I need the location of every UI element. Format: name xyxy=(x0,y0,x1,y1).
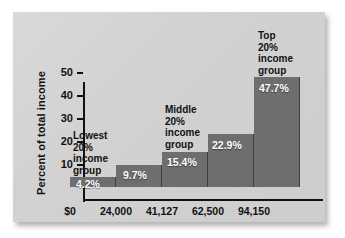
x-tick-label-0: $0 xyxy=(58,205,82,217)
y-tick-mark-40 xyxy=(77,95,83,97)
annotation-lowest-line-2: 20% xyxy=(73,142,108,154)
bar-value-lowest: 4.2% xyxy=(76,178,100,190)
annotation-lowest-line-1: Lowest xyxy=(73,130,108,142)
y-tick-label-50: 50 xyxy=(49,67,73,78)
bar-value-top: 47.7% xyxy=(259,82,289,94)
x-tick-label-62500: 62,500 xyxy=(188,205,228,217)
annotation-top-line-2: 20% xyxy=(258,42,293,54)
annotation-lowest-line-3: income xyxy=(73,153,108,165)
x-axis-line xyxy=(83,199,323,201)
annotation-middle-line-1: Middle xyxy=(165,104,200,116)
y-tick-label-40: 40 xyxy=(49,90,73,101)
y-tick-label-20: 20 xyxy=(49,136,73,147)
chart-screenshot: Percent of total income 50 40 30 20 10 4… xyxy=(0,0,345,238)
annotation-top-line-1: Top xyxy=(258,30,293,42)
annotation-middle-line-4: group xyxy=(165,139,200,151)
annotation-top-20-income-group: Top 20% income group xyxy=(258,30,293,76)
bar-value-middle: 15.4% xyxy=(167,156,197,168)
annotation-top-line-4: group xyxy=(258,65,293,77)
chart-panel: Percent of total income 50 40 30 20 10 4… xyxy=(13,12,325,222)
y-tick-label-10: 10 xyxy=(49,159,73,170)
y-tick-label-30: 30 xyxy=(49,113,73,124)
y-tick-mark-50 xyxy=(77,72,83,74)
annotation-top-line-3: income xyxy=(258,53,293,65)
annotation-middle-20-income-group: Middle 20% income group xyxy=(165,104,200,150)
y-axis-title: Percent of total income xyxy=(35,77,47,195)
annotation-lowest-line-4: group xyxy=(73,165,108,177)
annotation-middle-line-3: income xyxy=(165,127,200,139)
y-tick-mark-30 xyxy=(77,118,83,120)
bar-value-second: 9.7% xyxy=(123,169,147,181)
annotation-lowest-20-income-group: Lowest 20% income group xyxy=(73,130,108,176)
x-tick-label-94150: 94,150 xyxy=(234,205,274,217)
annotation-middle-line-2: 20% xyxy=(165,116,200,128)
x-tick-label-24000: 24,000 xyxy=(96,205,136,217)
bar-value-fourth: 22.9% xyxy=(212,139,242,151)
x-tick-label-41127: 41,127 xyxy=(142,205,182,217)
